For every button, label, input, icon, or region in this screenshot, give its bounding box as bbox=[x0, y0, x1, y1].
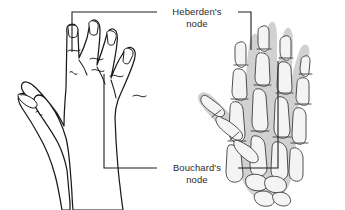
callout-heberden: Heberden's node bbox=[172, 6, 221, 29]
line-drawn-hand-panel bbox=[18, 20, 146, 210]
bouchard-label-line2: node bbox=[186, 174, 208, 185]
callout-bouchard: Bouchard's node bbox=[173, 162, 221, 185]
node-marking-little-dip bbox=[133, 95, 146, 97]
heberden-label-line1: Heberden's bbox=[172, 6, 221, 17]
bouchard-label-line1: Bouchard's bbox=[173, 162, 221, 173]
ring-fingernail bbox=[107, 31, 116, 45]
hand-outline-path bbox=[18, 20, 135, 210]
index-fingernail bbox=[68, 25, 78, 38]
middle-fingernail bbox=[89, 21, 98, 35]
skeletal-hand-panel bbox=[198, 22, 312, 206]
osteoarthritis-hand-figure: Heberden's node Bouchard's node bbox=[0, 0, 345, 210]
heberden-label-line2: node bbox=[186, 18, 208, 29]
figure-canvas: Heberden's node Bouchard's node bbox=[0, 0, 345, 210]
